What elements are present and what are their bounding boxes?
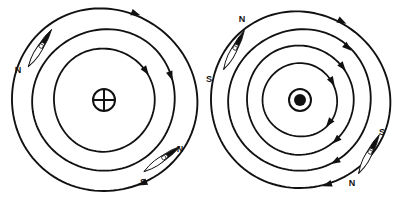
magnetic-field-diagram: NNS NSSN — [0, 0, 405, 202]
pole-label-n: N — [15, 65, 22, 75]
pole-label-n: N — [349, 178, 356, 188]
current-out-dot — [294, 94, 306, 106]
figure-root: NNS NSSN — [0, 0, 405, 202]
pole-label-s: S — [140, 177, 146, 187]
conductor-current-into-page — [93, 89, 115, 111]
pole-label-s: S — [206, 74, 212, 84]
pole-label-n: N — [177, 144, 184, 154]
figure-background — [0, 0, 405, 202]
pole-label-n: N — [239, 14, 246, 24]
pole-label-s: S — [379, 127, 385, 137]
